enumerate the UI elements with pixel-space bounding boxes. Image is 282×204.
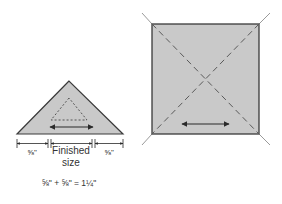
square-block — [142, 13, 270, 145]
finished-label: Finished — [52, 145, 90, 156]
extension-line-tl — [142, 13, 152, 24]
right-seam-label: ⅝" — [104, 148, 114, 157]
quarter-square-triangle — [17, 81, 123, 134]
extension-line-tr — [259, 13, 270, 24]
size-label: size — [62, 157, 80, 168]
left-seam-label: ⅝" — [27, 148, 37, 157]
seam-allowance-equation: ⅝" + ⅝" = 1¼" — [42, 178, 96, 188]
extension-line-bl — [142, 134, 152, 145]
extension-line-br — [259, 134, 270, 145]
triangle-shape — [17, 81, 123, 134]
diagram-canvas: ⅝" Finished size ⅝" ⅝" + ⅝" = 1¼" — [0, 0, 282, 204]
